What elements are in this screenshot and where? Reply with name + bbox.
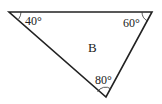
angle-label-60: 60°	[123, 16, 140, 30]
angle-label-80: 80°	[95, 73, 112, 87]
angle-arc-40	[19, 12, 21, 19]
triangle-name-label: B	[88, 40, 97, 55]
angle-arc-60	[142, 12, 147, 21]
angle-label-40: 40°	[25, 14, 42, 28]
triangle-diagram: 40° 60° 80° B	[0, 0, 162, 104]
